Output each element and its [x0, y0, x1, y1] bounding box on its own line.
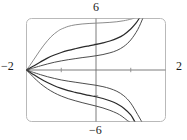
- plot-canvas: [0, 0, 187, 140]
- axis-label-x-min: −2: [1, 60, 14, 72]
- axis-label-x-max: 2: [176, 60, 182, 72]
- axis-label-y-max: 6: [93, 1, 99, 13]
- axis-label-y-min: −6: [89, 124, 102, 136]
- graph-widget: 6 −6 −2 2: [0, 0, 187, 140]
